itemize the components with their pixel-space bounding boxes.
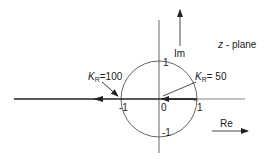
z-plane-diagram: × Im z - plane Re 1 -1 0 1 -1 KR=100 KR=… [0, 0, 274, 159]
re-label: Re [220, 118, 233, 129]
im-label: Im [174, 48, 185, 59]
tick-re-neg: -1 [119, 102, 128, 113]
tick-re-pos: 1 [197, 102, 203, 113]
kr50-label: KR= 50 [195, 71, 227, 83]
tick-origin: 0 [161, 102, 167, 113]
tick-im-pos: 1 [163, 57, 169, 68]
locus-direction-arrow-icon [93, 96, 103, 102]
kr100-pointer [102, 82, 118, 96]
tick-im-neg: -1 [162, 127, 171, 138]
kr50-pointer [163, 82, 196, 96]
plane-label-rest: - plane [223, 39, 257, 50]
plane-label: z - plane [217, 39, 257, 50]
kr100-label: KR=100 [88, 71, 123, 83]
